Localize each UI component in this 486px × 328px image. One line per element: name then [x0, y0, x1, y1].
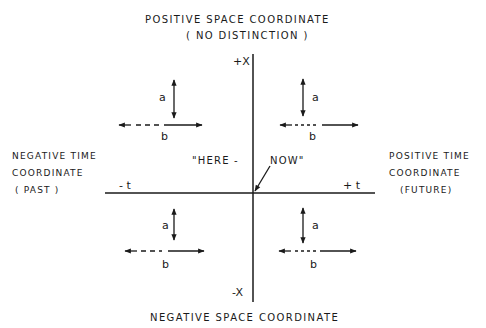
spacetime-diagram	[0, 0, 486, 328]
lr-b-label: b	[310, 259, 317, 270]
pos-x-label: +X	[233, 56, 250, 67]
left-label-line3: ( PAST )	[15, 186, 60, 195]
right-label-line2: COORDINATE	[389, 169, 461, 178]
quadrant-upper-right-arrows	[280, 79, 358, 125]
now-label: NOW"	[270, 156, 305, 166]
ur-a-label: a	[312, 92, 319, 103]
top-label-line2: ( NO DISTINCTION )	[186, 31, 309, 41]
ll-a-label: a	[162, 220, 169, 231]
bottom-label: NEGATIVE SPACE COORDINATE	[150, 313, 339, 323]
origin-pointer-arrow	[255, 166, 270, 191]
left-label-line2: COORDINATE	[12, 169, 84, 178]
ur-b-label: b	[309, 131, 316, 142]
top-label-line1: POSITIVE SPACE COORDINATE	[145, 15, 330, 25]
ll-b-label: b	[162, 259, 169, 270]
left-label-line1: NEGATIVE TIME	[12, 152, 97, 161]
neg-t-label: - t	[119, 180, 131, 191]
right-label-line3: (FUTURE)	[400, 186, 452, 195]
lr-a-label: a	[312, 220, 319, 231]
neg-x-label: -X	[232, 287, 243, 298]
ul-a-label: a	[159, 92, 166, 103]
pos-t-label: + t	[343, 180, 360, 191]
ul-b-label: b	[161, 131, 168, 142]
right-label-line1: POSITIVE TIME	[389, 152, 470, 161]
here-label: "HERE -	[192, 156, 239, 166]
